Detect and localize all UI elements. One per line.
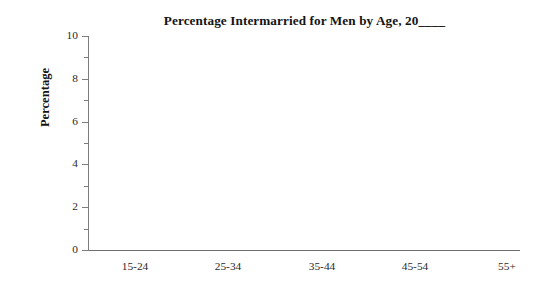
y-minor-tick-5 bbox=[84, 143, 89, 144]
y-tick-10 bbox=[82, 36, 89, 37]
x-axis-line bbox=[88, 250, 520, 251]
chart-title: Percentage Intermarried for Men by Age, … bbox=[89, 13, 520, 29]
y-minor-tick-1 bbox=[84, 229, 89, 230]
y-tick-8 bbox=[82, 79, 89, 80]
y-minor-tick-3 bbox=[84, 186, 89, 187]
x-tick-label-25-34: 25-34 bbox=[188, 261, 268, 272]
x-tick-label-45-54: 45-54 bbox=[375, 261, 455, 272]
y-minor-tick-9 bbox=[84, 57, 89, 58]
y-minor-tick-7 bbox=[84, 100, 89, 101]
y-tick-0 bbox=[82, 250, 89, 251]
y-tick-label-6: 6 bbox=[18, 116, 78, 127]
chart-figure: Percentage Intermarried for Men by Age, … bbox=[0, 0, 544, 295]
x-tick-label-35-44: 35-44 bbox=[282, 261, 362, 272]
x-tick-label-15-24: 15-24 bbox=[95, 261, 175, 272]
y-tick-6 bbox=[82, 122, 89, 123]
y-tick-label-4: 4 bbox=[18, 158, 78, 169]
y-tick-4 bbox=[82, 164, 89, 165]
y-tick-label-8: 8 bbox=[18, 73, 78, 84]
x-tick-label-55-plus: 55+ bbox=[467, 261, 544, 272]
y-tick-label-2: 2 bbox=[18, 201, 78, 212]
y-tick-2 bbox=[82, 207, 89, 208]
y-tick-label-0: 0 bbox=[18, 244, 78, 255]
y-tick-label-10: 10 bbox=[18, 30, 78, 41]
plot-area bbox=[89, 36, 520, 250]
